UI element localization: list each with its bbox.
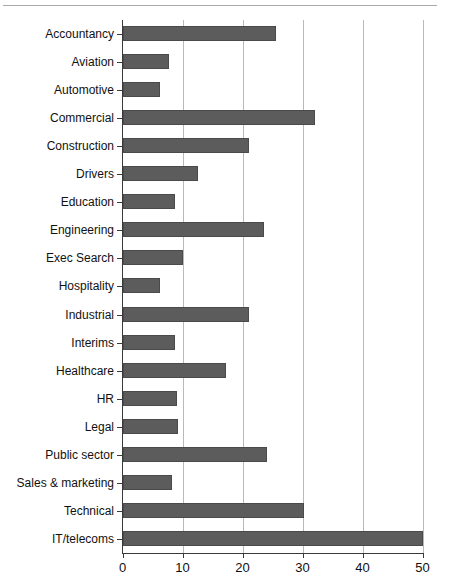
y-tick-label-interims: Interims	[71, 337, 114, 349]
y-tick	[117, 62, 122, 63]
y-tick-label-accountancy: Accountancy	[45, 28, 114, 40]
bar	[123, 82, 161, 97]
y-tick	[117, 511, 122, 512]
bar	[123, 54, 170, 69]
y-tick	[117, 230, 122, 231]
y-tick	[117, 483, 122, 484]
y-tick-label-sales-marketing: Sales & marketing	[17, 477, 114, 489]
y-tick-label-drivers: Drivers	[76, 168, 114, 180]
y-tick	[117, 315, 122, 316]
bar-row	[123, 216, 423, 243]
bar-row	[123, 329, 423, 356]
y-tick	[117, 286, 122, 287]
y-tick	[117, 90, 122, 91]
bar-row	[123, 301, 423, 328]
bar-row	[123, 413, 423, 440]
bar-row	[123, 272, 423, 299]
bar-row	[123, 244, 423, 271]
bar	[123, 335, 176, 350]
x-tick-30	[303, 553, 304, 558]
y-tick-label-construction: Construction	[47, 140, 114, 152]
x-tick-40	[363, 553, 364, 558]
y-tick	[117, 343, 122, 344]
bar	[123, 250, 183, 265]
bar-row	[123, 357, 423, 384]
y-tick-label-hr: HR	[97, 393, 114, 405]
bar-chart-figure: AccountancyAviationAutomotiveCommercialC…	[0, 0, 452, 585]
bar	[123, 166, 198, 181]
bar	[123, 419, 178, 434]
y-tick	[117, 174, 122, 175]
x-tick-label-10: 10	[163, 561, 203, 575]
bar-row	[123, 525, 423, 552]
bar	[123, 138, 249, 153]
y-tick-label-hospitality: Hospitality	[59, 280, 114, 292]
bar-row	[123, 160, 423, 187]
bar	[123, 447, 267, 462]
bar	[123, 194, 176, 209]
bar-row	[123, 385, 423, 412]
y-tick	[117, 539, 122, 540]
bar-row	[123, 104, 423, 131]
x-tick-0	[123, 553, 124, 558]
bar	[123, 363, 227, 378]
y-tick	[117, 371, 122, 372]
bar	[123, 307, 249, 322]
x-tick-10	[183, 553, 184, 558]
y-tick-label-public-sector: Public sector	[45, 449, 114, 461]
y-tick-label-automotive: Automotive	[54, 84, 114, 96]
x-tick-20	[243, 553, 244, 558]
gridline-50	[423, 20, 424, 553]
bar-row	[123, 76, 423, 103]
top-divider-rule	[3, 5, 437, 6]
bar-row	[123, 188, 423, 215]
bar	[123, 110, 315, 125]
bar-row	[123, 469, 423, 496]
y-tick	[117, 34, 122, 35]
y-tick	[117, 118, 122, 119]
y-tick	[117, 455, 122, 456]
bar	[123, 222, 264, 237]
y-tick	[117, 258, 122, 259]
x-tick-label-30: 30	[283, 561, 323, 575]
bar	[123, 475, 173, 490]
y-tick-label-aviation: Aviation	[72, 56, 114, 68]
x-tick-50	[423, 553, 424, 558]
bar-row	[123, 20, 423, 47]
x-tick-label-0: 0	[103, 561, 143, 575]
y-tick	[117, 427, 122, 428]
y-tick-label-it-telecoms: IT/telecoms	[52, 533, 114, 545]
bar-row	[123, 132, 423, 159]
y-tick-label-commercial: Commercial	[50, 112, 114, 124]
bar-row	[123, 48, 423, 75]
bar-row	[123, 497, 423, 524]
x-axis-line	[122, 553, 423, 554]
y-tick-label-exec-search: Exec Search	[46, 252, 114, 264]
y-tick-label-engineering: Engineering	[50, 224, 114, 236]
bar	[123, 26, 276, 41]
y-tick	[117, 146, 122, 147]
y-tick-label-education: Education	[61, 196, 114, 208]
x-tick-label-40: 40	[343, 561, 383, 575]
y-tick	[117, 202, 122, 203]
bar	[123, 278, 161, 293]
bar-row	[123, 441, 423, 468]
bar	[123, 531, 423, 546]
x-tick-label-20: 20	[223, 561, 263, 575]
bar	[123, 391, 177, 406]
x-tick-label-50: 50	[403, 561, 443, 575]
y-tick-label-technical: Technical	[64, 505, 114, 517]
y-tick-label-industrial: Industrial	[65, 309, 114, 321]
y-tick-label-legal: Legal	[85, 421, 114, 433]
bar	[123, 503, 305, 518]
y-tick	[117, 399, 122, 400]
y-tick-label-healthcare: Healthcare	[56, 365, 114, 377]
